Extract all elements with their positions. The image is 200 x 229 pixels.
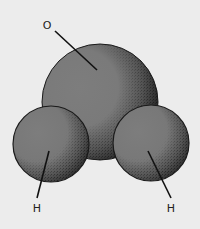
hydrogen-atom-left	[13, 106, 89, 182]
water-molecule-diagram: O H H	[0, 0, 200, 229]
hydrogen-right-stipple-shading	[113, 105, 189, 181]
oxygen-label: O	[43, 19, 52, 32]
hydrogen-left-stipple-shading	[13, 106, 89, 182]
hydrogen-atom-right	[113, 105, 189, 181]
hydrogen-left-label: H	[33, 202, 41, 215]
hydrogen-right-label: H	[167, 202, 175, 215]
